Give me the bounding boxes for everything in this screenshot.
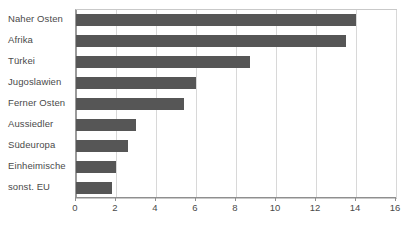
- category-axis-label: sonst. EU: [8, 181, 74, 193]
- axis-tick-mark: [275, 197, 276, 201]
- axis-tick-mark: [355, 197, 356, 201]
- category-axis-label: Naher Osten: [8, 13, 74, 25]
- bars-series: [76, 10, 396, 198]
- value-axis-tick-label: 6: [182, 202, 208, 214]
- value-axis-tick-label: 2: [102, 202, 128, 214]
- category-axis-label: Ferner Osten: [8, 97, 74, 109]
- value-axis-tick-label: 4: [142, 202, 168, 214]
- axis-tick-mark: [195, 197, 196, 201]
- category-axis-label: Afrika: [8, 34, 74, 46]
- bar: [76, 161, 116, 173]
- bar-chart: Naher OstenAfrikaTürkeiJugoslawienFerner…: [0, 0, 406, 226]
- category-axis-labels: Naher OstenAfrikaTürkeiJugoslawienFerner…: [0, 13, 72, 193]
- value-axis-tick-label: 10: [262, 202, 288, 214]
- axis-tick-mark: [115, 197, 116, 201]
- bar: [76, 140, 128, 152]
- category-axis-label: Einheimische: [8, 160, 74, 172]
- bar: [76, 119, 136, 131]
- value-axis-tick-label: 8: [222, 202, 248, 214]
- value-axis-line: [75, 197, 395, 198]
- bar: [76, 14, 356, 26]
- axis-tick-mark: [395, 197, 396, 201]
- bar: [76, 182, 112, 194]
- value-axis-tick-label: 14: [342, 202, 368, 214]
- bar: [76, 77, 196, 89]
- plot-area: [75, 9, 397, 199]
- value-axis-tick-label: 12: [302, 202, 328, 214]
- category-axis-label: Jugoslawien: [8, 76, 74, 88]
- axis-tick-mark: [315, 197, 316, 201]
- axis-tick-mark: [75, 197, 76, 201]
- category-axis-label: Türkei: [8, 55, 74, 67]
- bar: [76, 98, 184, 110]
- value-axis-tick-label: 0: [62, 202, 88, 214]
- value-axis-labels: 0246810121416: [75, 202, 395, 216]
- category-axis-label: Südeuropa: [8, 139, 74, 151]
- bar: [76, 56, 250, 68]
- category-axis-label: Aussiedler: [8, 118, 74, 130]
- axis-tick-mark: [235, 197, 236, 201]
- axis-tick-mark: [155, 197, 156, 201]
- gridline: [396, 10, 397, 198]
- bar: [76, 35, 346, 47]
- value-axis-tick-label: 16: [382, 202, 406, 214]
